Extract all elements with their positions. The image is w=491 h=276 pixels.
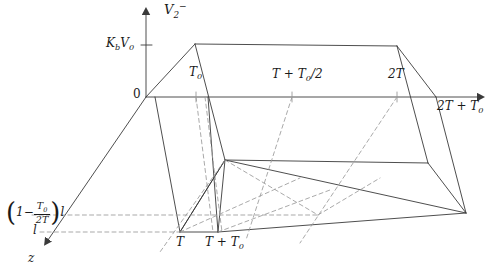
label-2t-plus-t0: 2T + T0 (437, 100, 484, 115)
base-left-to-peak (180, 160, 225, 232)
diagram-svg (0, 0, 491, 276)
dash-peak-to-base (225, 160, 318, 215)
label-t-plus-t0-bottom: T + T0 (205, 236, 244, 251)
axis-label-z: z (28, 252, 34, 264)
label-t-bottom: T (176, 236, 184, 248)
back-rise-edge (146, 44, 195, 97)
axis-label-v2-minus: V2− (164, 2, 187, 20)
label-l-plain: l (33, 224, 37, 236)
ground-long-edge (225, 160, 466, 213)
label-kb-v0: KbV0 (106, 37, 134, 52)
label-t-plus-t0-half: T + T0/2 (272, 68, 323, 83)
dash-base-to-right (218, 190, 330, 232)
label-t0: T0 (189, 66, 202, 81)
depth-edge-plateau-end (397, 46, 428, 163)
figure-canvas: V2− 0 KbV0 T0 T + T0/2 2T 2T + T0 T T + … (0, 0, 491, 276)
label-origin: 0 (133, 88, 141, 100)
base-front-vertical (218, 160, 225, 232)
label-2t: 2T (388, 68, 404, 80)
base-right-riser (208, 97, 218, 232)
dash-upper-right-seg (318, 178, 380, 215)
back-plateau-edge (195, 44, 397, 46)
base-left-riser (155, 97, 180, 232)
dash-t0-vertical (196, 97, 213, 232)
depth-edge-peak (195, 44, 225, 160)
label-l-scaled: (1−T02T)l (6, 200, 64, 226)
base-right-slant (218, 213, 466, 232)
dash-2t-diagonal (300, 97, 397, 243)
front-plateau-edge (225, 160, 428, 163)
